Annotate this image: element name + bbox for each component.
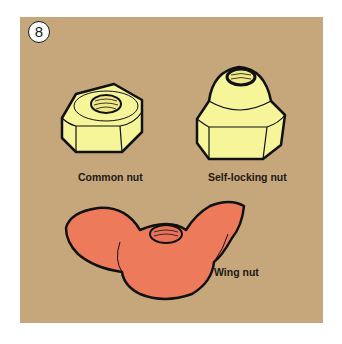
self-locking-nut-illustration	[193, 63, 288, 163]
wing-nut-illustration	[64, 200, 244, 310]
label-self-locking-nut: Self-locking nut	[208, 171, 287, 183]
figure-number-badge: 8	[28, 21, 50, 43]
label-common-nut: Common nut	[78, 171, 143, 183]
label-wing-nut: Wing nut	[214, 266, 259, 278]
common-nut-illustration	[58, 80, 148, 160]
